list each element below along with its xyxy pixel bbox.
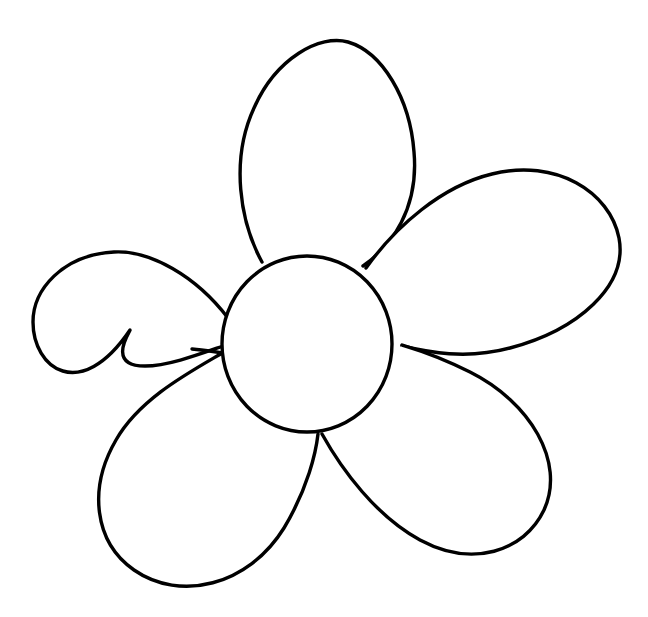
flower-center[interactable] xyxy=(222,256,392,432)
artwork-canvas: Black outline drawing of a simple five-p… xyxy=(0,0,648,617)
flower-drawing xyxy=(0,0,648,617)
